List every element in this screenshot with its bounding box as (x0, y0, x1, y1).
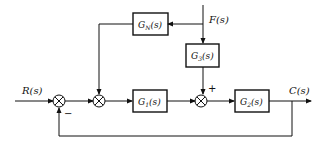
disturbance-label: F(s) (208, 14, 229, 25)
block-diagram: GN(s) G3(s) G1(s) G2(s) R(s) F(s) C(s) +… (0, 0, 323, 149)
summing-junction-2 (93, 95, 105, 107)
gn-to-sum2-line (99, 24, 133, 94)
block-gn-label: GN(s) (138, 20, 163, 31)
plus-sign: + (208, 83, 216, 94)
block-g3-label: G3(s) (191, 51, 214, 62)
summing-junction-3 (195, 95, 207, 107)
output-label: C(s) (289, 85, 310, 96)
minus-sign: − (64, 108, 72, 119)
block-g2-label: G2(s) (240, 97, 263, 108)
summing-junction-1 (53, 95, 65, 107)
block-g1-label: G1(s) (138, 97, 161, 108)
input-label: R(s) (21, 85, 43, 96)
